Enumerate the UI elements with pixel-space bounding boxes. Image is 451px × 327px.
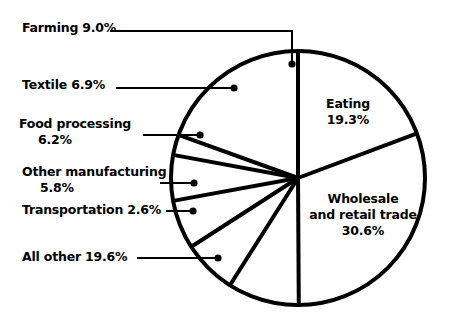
- leader-dot-farming: [288, 60, 295, 67]
- slice-label-farming: Farming 9.0%: [22, 21, 116, 35]
- slice-label-eating-line1: Eating: [310, 97, 386, 111]
- slice-label-other-manufacturing-line1: Other manufacturing: [22, 165, 166, 179]
- leader-dot-food-processing: [196, 131, 203, 138]
- leader-dot-other-manufacturing: [190, 179, 197, 186]
- slice-label-all-other: All other 19.6%: [22, 250, 127, 264]
- slice-label-wholesale-line2: and retail trade: [305, 208, 421, 222]
- slice-label-other-manufacturing-line2: 5.8%: [40, 181, 74, 195]
- slice-label-food-processing-line1: Food processing: [19, 117, 131, 131]
- leader-dot-all-other: [214, 254, 221, 261]
- slice-label-food-processing-line2: 6.2%: [38, 133, 72, 147]
- slice-label-transportation: Transportation 2.6%: [22, 203, 161, 217]
- pie-chart-figure: Farming 9.0% Textile 6.9% Food processin…: [0, 0, 451, 327]
- slice-label-wholesale-line1: Wholesale: [305, 192, 421, 206]
- slice-label-textile: Textile 6.9%: [22, 78, 105, 92]
- leader-dot-textile: [230, 84, 237, 91]
- slice-label-wholesale-line3: 30.6%: [305, 224, 421, 238]
- slice-label-eating-line2: 19.3%: [310, 113, 386, 127]
- leader-dot-transportation: [189, 207, 196, 214]
- slice-divider-wholesale-allother: [298, 178, 299, 305]
